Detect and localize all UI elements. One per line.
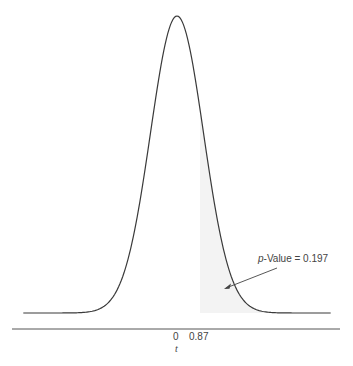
x-tick-label-0: 0 [173, 331, 179, 342]
t-distribution-chart: p-Value = 0.197 0 0.87 t [0, 0, 353, 366]
p-value-shaded-region [200, 110, 331, 313]
annotation-text: p-Value = 0.197 [257, 253, 329, 264]
annotation-arrow [226, 268, 277, 288]
annotation-value: -Value = 0.197 [264, 253, 329, 264]
x-axis-title: t [175, 343, 178, 354]
density-curve [23, 16, 330, 313]
x-tick-label-087: 0.87 [189, 331, 209, 342]
